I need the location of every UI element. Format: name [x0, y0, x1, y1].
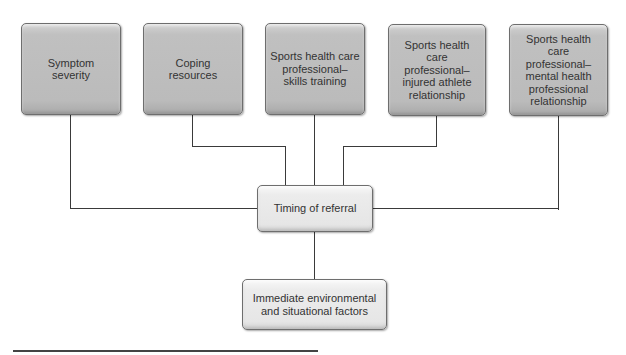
node-injured-athlete-relationship: Sports health care professional– injured… [388, 24, 486, 116]
connector-mental-horizontal [372, 208, 559, 209]
connector-injured-horizontal [343, 146, 437, 147]
node-label: Sports health care professional– mental … [514, 33, 603, 108]
connector-symptom-vertical [70, 114, 71, 209]
connector-timing-to-factors [314, 231, 315, 280]
node-label: Symptom severity [48, 57, 94, 82]
node-mental-health-relationship: Sports health care professional– mental … [509, 24, 608, 116]
node-label: Sports health care professional– injured… [393, 39, 481, 102]
node-environmental-factors: Immediate environmental and situational … [242, 279, 387, 330]
connector-coping-vertical-2 [285, 146, 286, 186]
node-timing-of-referral: Timing of referral [257, 185, 373, 232]
node-label: Coping resources [169, 57, 217, 82]
connector-skills-vertical [314, 114, 315, 186]
node-symptom-severity: Symptom severity [21, 23, 121, 115]
connector-injured-vertical-2 [343, 146, 344, 186]
connector-injured-vertical-1 [436, 115, 437, 147]
connector-mental-vertical [558, 115, 559, 210]
figure-divider-rule [13, 350, 318, 352]
node-label: Timing of referral [274, 202, 357, 215]
node-coping-resources: Coping resources [143, 23, 243, 115]
node-skills-training: Sports health care professional– skills … [265, 23, 365, 115]
node-label: Sports health care professional– skills … [270, 50, 359, 88]
connector-symptom-horizontal [70, 208, 258, 209]
connector-coping-horizontal [192, 146, 286, 147]
node-label: Immediate environmental and situational … [253, 292, 377, 317]
connector-coping-vertical-1 [192, 114, 193, 147]
